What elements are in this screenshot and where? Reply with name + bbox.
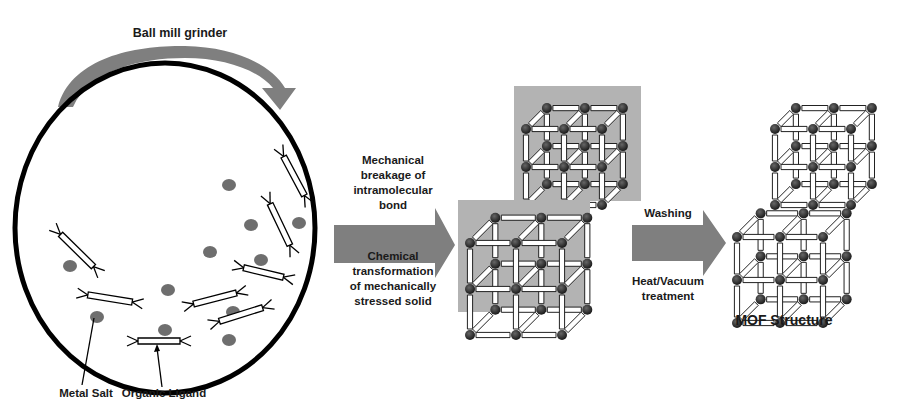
linker-bar	[848, 173, 853, 199]
linker-bar	[781, 126, 807, 131]
metal-node	[732, 275, 742, 285]
metal-node	[799, 208, 809, 218]
linker-bar	[767, 211, 798, 216]
linker-bar	[869, 114, 874, 140]
linker-bar	[777, 187, 793, 203]
process-arrow-2-icon	[632, 210, 726, 276]
linker-bar	[810, 211, 841, 216]
step1-top-line-3: intramolecular	[353, 184, 433, 196]
linker-bar	[844, 262, 849, 293]
linker-bar	[810, 173, 815, 199]
mechanochemical-step: Mechanical breakage of intramolecular bo…	[334, 154, 455, 307]
linker-bar	[518, 312, 538, 332]
organic-ligand-molecule	[207, 300, 274, 330]
metal-node	[808, 162, 818, 172]
linker-bar	[585, 270, 590, 304]
mof-lattice-final-front	[732, 208, 852, 328]
final-mof-structures: MOF Structure	[732, 103, 877, 328]
linker-bar	[869, 152, 874, 178]
linker-bar	[786, 234, 817, 239]
metal-node	[618, 141, 628, 151]
metal-node	[756, 208, 766, 218]
metal-node	[511, 284, 521, 294]
metal-node	[808, 200, 818, 210]
linker-bars	[734, 211, 849, 326]
step1-bottom-line-2: transformation	[352, 265, 433, 277]
metal-salt-particle	[254, 254, 268, 266]
linker-bar	[743, 234, 774, 239]
metal-node	[791, 103, 801, 113]
linker-bar	[815, 149, 831, 165]
metal-node	[618, 103, 628, 113]
linker-bar	[591, 106, 617, 111]
metal-node	[559, 124, 569, 134]
metal-node	[618, 179, 628, 189]
linker-bar	[782, 216, 801, 235]
metal-node	[582, 213, 592, 223]
linker-bar	[739, 216, 758, 235]
linker-bar	[777, 149, 793, 165]
linker-bar	[570, 164, 596, 169]
mof-lattice-crude-front	[465, 213, 592, 340]
linker-bar	[815, 111, 831, 127]
metal-salt-particle	[161, 284, 175, 296]
metal-node	[557, 284, 567, 294]
metal-node	[580, 141, 590, 151]
metal-salt-particle	[90, 311, 104, 323]
metal-node	[756, 251, 766, 261]
step1-top-line-4: bond	[379, 199, 407, 211]
linker-bar	[853, 111, 869, 127]
linker-bar	[476, 240, 510, 245]
metal-node	[490, 213, 500, 223]
metal-node	[597, 162, 607, 172]
metal-node	[597, 124, 607, 134]
metal-node	[536, 213, 546, 223]
metal-node	[536, 259, 546, 269]
linker-bar	[501, 215, 535, 220]
metal-node	[521, 162, 531, 172]
metal-salt-particle	[244, 219, 258, 231]
linker-bar	[522, 240, 556, 245]
metal-node	[580, 103, 590, 113]
step1-top-line-2: breakage of	[361, 169, 426, 181]
metal-node	[829, 103, 839, 113]
linker-bar	[570, 126, 596, 131]
step2-bottom-line-1: Heat/Vacuum	[632, 275, 704, 287]
metal-node	[521, 124, 531, 134]
metal-node	[490, 305, 500, 315]
linker-bar	[523, 135, 528, 161]
metal-node	[791, 179, 801, 189]
metal-node	[770, 162, 780, 172]
step2-bottom-line-2: treatment	[642, 290, 695, 302]
linker-bar	[553, 106, 579, 111]
linker-bar	[810, 135, 815, 161]
metal-node	[867, 179, 877, 189]
metal-node	[465, 330, 475, 340]
linker-bar	[532, 164, 558, 169]
metal-node	[490, 259, 500, 269]
metal-node	[597, 200, 607, 210]
metal-node	[465, 238, 475, 248]
linker-bar	[559, 295, 564, 329]
metal-node	[511, 330, 521, 340]
linker-bar	[559, 249, 564, 283]
metal-node	[582, 305, 592, 315]
linker-bar	[853, 149, 869, 165]
linker-bar	[599, 135, 604, 161]
metal-salt-label: Metal Salt	[59, 387, 113, 399]
linker-bar	[819, 126, 845, 131]
linker-bar	[782, 259, 801, 278]
metal-node	[818, 232, 828, 242]
linker-bar	[777, 243, 782, 274]
linker-bar	[523, 173, 528, 199]
crude-mof-panels	[458, 86, 641, 340]
metal-node	[542, 179, 552, 189]
metal-node	[799, 294, 809, 304]
organic-ligand-molecule	[49, 223, 105, 278]
mof-synthesis-diagram: Ball mill grinder Metal Salt Organic Lig…	[0, 0, 923, 411]
linker-bar	[781, 202, 807, 207]
metal-node	[846, 124, 856, 134]
metal-node	[846, 162, 856, 172]
organic-ligand-pointer-head	[154, 344, 160, 352]
linker-bar	[620, 114, 625, 140]
